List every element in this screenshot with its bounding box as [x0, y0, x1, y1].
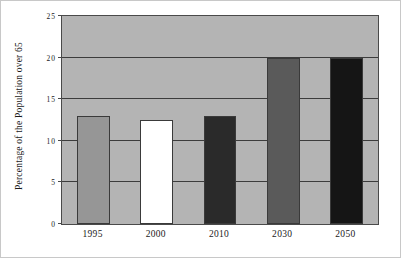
bar-2030 — [267, 58, 300, 224]
y-tick-label: 0 — [51, 220, 56, 229]
y-tick-mark — [58, 15, 62, 16]
y-tick-mark — [58, 140, 62, 141]
plot-area: 0510152025 — [61, 15, 379, 225]
y-tick-label: 5 — [51, 178, 56, 187]
chart-figure: Percentage of the Population over 65 051… — [0, 0, 401, 258]
x-tick-label-2050: 2050 — [335, 229, 355, 239]
x-tick-label-1995: 1995 — [82, 229, 102, 239]
y-tick-mark — [58, 57, 62, 58]
bar-2050 — [330, 58, 363, 224]
y-tick-label: 25 — [47, 12, 57, 21]
x-tick-label-2000: 2000 — [146, 229, 166, 239]
bar-2010 — [204, 116, 237, 224]
x-tick-label-2030: 2030 — [272, 229, 292, 239]
y-tick-label: 20 — [47, 53, 57, 62]
y-tick-label: 10 — [47, 136, 57, 145]
y-tick-mark — [58, 223, 62, 224]
y-tick-label: 15 — [47, 95, 57, 104]
y-tick-mark — [58, 181, 62, 182]
y-tick-mark — [58, 98, 62, 99]
bar-2000 — [140, 120, 173, 224]
bar-1995 — [77, 116, 110, 224]
y-axis-title: Percentage of the Population over 65 — [14, 1, 24, 231]
x-tick-label-2010: 2010 — [209, 229, 229, 239]
